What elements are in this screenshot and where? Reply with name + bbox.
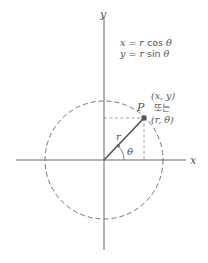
- angle-arc: [118, 146, 124, 161]
- point-cartesian-label: (x, y): [151, 90, 175, 101]
- point-p-marker: [142, 116, 147, 121]
- equation-y: y = r sin θ: [119, 48, 170, 59]
- y-axis-label: y: [99, 8, 107, 21]
- radius-label: r: [116, 131, 122, 142]
- equation-x: x = r cos θ: [120, 37, 172, 48]
- radius-line: [104, 118, 144, 160]
- polar-coordinate-diagram: y x x = r cos θ y = r sin θ P (x, y) 또는 …: [0, 0, 208, 263]
- point-polar-label: (r, θ): [151, 114, 174, 125]
- angle-label: θ: [127, 146, 133, 157]
- point-or-label: 또는: [154, 103, 170, 113]
- x-axis-label: x: [190, 154, 197, 167]
- point-p-label: P: [136, 101, 145, 114]
